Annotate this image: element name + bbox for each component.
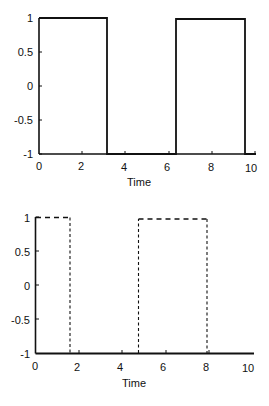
top-ytick-label: 0 bbox=[27, 80, 33, 92]
bottom-xtick-label: 8 bbox=[203, 361, 209, 373]
top-xtick-label: 4 bbox=[121, 161, 127, 173]
bottom-square-wave bbox=[36, 218, 207, 354]
bottom-ytick-label: 0.5 bbox=[15, 246, 30, 258]
top-xtick-label: 6 bbox=[164, 161, 170, 173]
bottom-xlabel: Time bbox=[122, 377, 146, 389]
top-plot: 1 0.5 0 -0.5 -1 0 2 4 6 8 10 Time bbox=[0, 0, 269, 200]
bottom-xtick-label: 6 bbox=[160, 361, 166, 373]
top-plot-svg: 1 0.5 0 -0.5 -1 0 2 4 6 8 10 Time bbox=[0, 0, 269, 200]
bottom-ytick-label: 0 bbox=[24, 280, 30, 292]
bottom-ytick-label: -1 bbox=[20, 348, 30, 360]
bottom-xtick-label: 10 bbox=[242, 362, 254, 374]
top-ytick-label: 1 bbox=[27, 12, 33, 24]
top-xtick-label: 8 bbox=[208, 161, 214, 173]
top-ytick-label: -0.5 bbox=[14, 114, 33, 126]
bottom-plot: 1 0.5 0 -0.5 -1 0 2 4 6 8 10 Time bbox=[0, 200, 269, 406]
bottom-xtick-label: 0 bbox=[32, 360, 38, 372]
top-ytick-label: -1 bbox=[23, 148, 33, 160]
bottom-xtick-label: 2 bbox=[74, 361, 80, 373]
top-square-wave bbox=[39, 18, 256, 154]
top-xtick-label: 2 bbox=[78, 160, 84, 172]
bottom-xtick-label: 4 bbox=[117, 361, 123, 373]
bottom-plot-svg: 1 0.5 0 -0.5 -1 0 2 4 6 8 10 Time bbox=[0, 200, 269, 406]
bottom-ytick-label: 1 bbox=[24, 212, 30, 224]
bottom-ytick-label: -0.5 bbox=[11, 314, 30, 326]
top-xtick-label: 10 bbox=[245, 162, 257, 174]
top-ytick-label: 0.5 bbox=[18, 46, 33, 58]
top-xtick-label: 0 bbox=[36, 160, 42, 172]
top-xlabel: Time bbox=[127, 176, 151, 188]
